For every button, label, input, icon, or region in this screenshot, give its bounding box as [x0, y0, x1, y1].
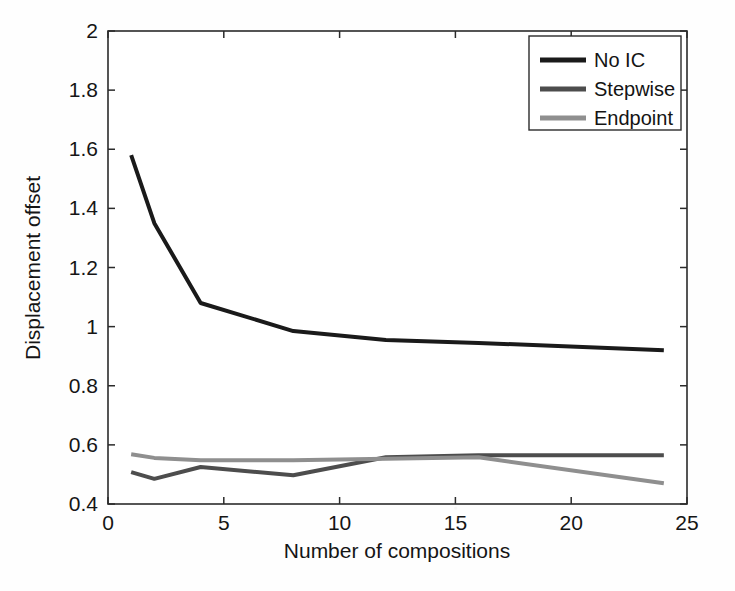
y-tick-label: 1.2: [69, 256, 98, 279]
x-tick-label: 5: [218, 511, 230, 534]
x-tick-label: 25: [675, 511, 698, 534]
y-tick-label: 1.4: [69, 196, 99, 219]
y-axis-title: Displacement offset: [21, 176, 44, 360]
x-axis-tick-labels: 0510152025: [102, 511, 699, 534]
legend-label-no-ic: No IC: [594, 49, 645, 71]
y-tick-label: 1.6: [69, 137, 98, 160]
x-tick-label: 10: [328, 511, 351, 534]
y-tick-label: 0.8: [69, 374, 98, 397]
legend-label-stepwise: Stepwise: [594, 78, 675, 100]
x-tick-label: 15: [444, 511, 467, 534]
y-tick-label: 0.4: [69, 492, 99, 515]
figure-canvas: 0510152025 0.40.60.811.21.41.61.82 Numbe…: [0, 0, 735, 591]
y-tick-label: 1: [86, 315, 98, 338]
line-chart: 0510152025 0.40.60.811.21.41.61.82 Numbe…: [0, 0, 735, 591]
y-tick-label: 1.8: [69, 78, 98, 101]
y-axis-tick-labels: 0.40.60.811.21.41.61.82: [69, 19, 99, 515]
y-tick-label: 0.6: [69, 433, 98, 456]
x-tick-label: 20: [560, 511, 583, 534]
x-axis-title: Number of compositions: [284, 539, 510, 562]
chart-legend: No ICStepwiseEndpoint: [529, 36, 681, 130]
x-tick-label: 0: [102, 511, 114, 534]
legend-label-endpoint: Endpoint: [594, 107, 673, 129]
y-tick-label: 2: [86, 19, 98, 42]
